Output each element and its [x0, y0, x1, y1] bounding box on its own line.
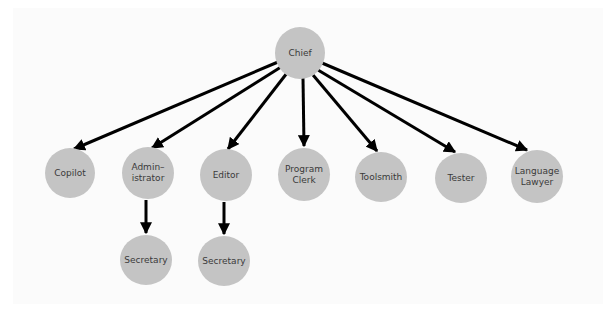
node-secretary-editor: Secretary	[198, 236, 250, 286]
node-label: Language Lawyer	[515, 166, 559, 188]
node-label: Copilot	[54, 168, 86, 179]
node-language-lawyer: Language Lawyer	[511, 150, 563, 203]
node-toolsmith: Toolsmith	[355, 152, 407, 202]
node-label: Program Clerk	[285, 164, 323, 186]
edge-chief-language-lawyer	[322, 63, 527, 150]
node-editor: Editor	[200, 149, 252, 201]
edge-chief-copilot	[74, 62, 278, 149]
node-administrator: Admin– istrator	[122, 147, 174, 199]
node-chief: Chief	[275, 27, 325, 79]
node-label: Toolsmith	[360, 172, 403, 183]
node-label: Secretary	[202, 256, 245, 267]
node-secretary-administrator: Secretary	[120, 235, 172, 285]
node-label: Secretary	[124, 255, 167, 266]
node-label: Chief	[288, 48, 311, 59]
node-copilot: Copilot	[45, 148, 95, 198]
node-program-clerk: Program Clerk	[278, 148, 330, 201]
node-label: Editor	[213, 170, 240, 181]
edge-chief-program-clerk	[303, 78, 304, 146]
node-label: Tester	[448, 173, 475, 184]
node-label: Admin– istrator	[131, 162, 164, 184]
node-tester: Tester	[435, 153, 487, 203]
edge-chief-editor	[228, 73, 287, 149]
